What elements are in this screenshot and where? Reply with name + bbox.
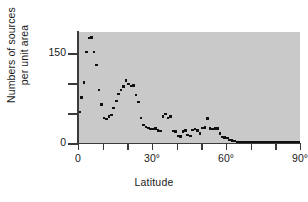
data-point — [219, 132, 222, 135]
x-axis-tick — [103, 144, 104, 150]
y-axis-tick-label: 0 — [26, 136, 66, 148]
data-point — [112, 107, 115, 110]
data-point — [98, 89, 101, 92]
data-point — [105, 118, 108, 121]
x-axis-tick-label: 0 — [56, 152, 100, 164]
x-axis-tick — [177, 144, 178, 150]
data-point — [122, 85, 125, 88]
data-point — [95, 64, 98, 67]
data-point — [184, 129, 187, 132]
x-axis-tick — [226, 144, 227, 150]
data-point — [159, 130, 162, 133]
chart-figure: Numbers of sources per unit area 0150 03… — [0, 0, 308, 202]
x-axis-tick — [251, 144, 252, 150]
plot-area — [78, 32, 300, 143]
data-point — [90, 36, 93, 39]
x-axis-title: Latitude — [0, 176, 308, 188]
data-point — [100, 103, 103, 106]
x-axis-tick — [201, 144, 202, 150]
x-axis-tick — [78, 144, 79, 150]
data-point — [135, 94, 138, 97]
y-axis-tick-label: 150 — [26, 46, 66, 58]
data-point — [115, 100, 118, 103]
x-axis-tick-label: 90° — [278, 152, 308, 164]
x-axis-tick-label: 60° — [204, 152, 248, 164]
y-axis-title-line-1: Numbers of sources — [5, 0, 18, 116]
x-axis-line — [77, 143, 301, 145]
x-axis-tick — [275, 144, 276, 150]
data-point — [117, 93, 120, 96]
data-point — [140, 117, 143, 120]
data-point — [110, 114, 113, 117]
x-axis-tick — [300, 144, 301, 150]
data-point — [93, 51, 96, 54]
data-point — [162, 115, 165, 118]
data-point — [216, 127, 219, 130]
y-axis-title: Numbers of sources per unit area — [5, 0, 31, 116]
data-point — [174, 130, 177, 133]
data-point — [120, 89, 123, 92]
y-axis-title-line-2: per unit area — [18, 0, 31, 116]
data-point — [206, 117, 209, 120]
data-point — [80, 96, 83, 99]
data-point — [85, 51, 88, 54]
y-axis-tick — [68, 53, 78, 55]
y-axis-tick — [68, 113, 78, 115]
data-point — [189, 135, 192, 138]
x-axis-tick — [127, 144, 128, 150]
y-axis-tick — [68, 83, 78, 85]
data-point — [179, 135, 182, 138]
x-axis-tick — [152, 144, 153, 150]
y-axis-line — [77, 31, 79, 144]
data-point — [83, 81, 86, 84]
data-point — [199, 132, 202, 135]
data-point — [132, 84, 135, 87]
data-point — [169, 115, 172, 118]
y-axis-tick — [68, 143, 78, 145]
data-point — [204, 126, 207, 129]
data-point — [164, 113, 167, 116]
x-axis-tick-label: 30° — [130, 152, 174, 164]
data-point — [137, 101, 140, 104]
data-point — [125, 79, 128, 82]
